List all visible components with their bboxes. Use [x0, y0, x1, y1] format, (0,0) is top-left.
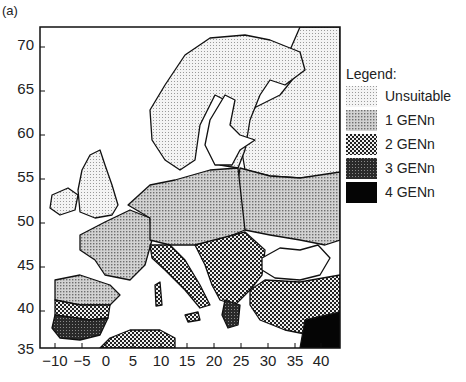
legend-swatch: [346, 110, 377, 131]
legend-swatch: [346, 134, 377, 155]
legend-swatch: [346, 158, 377, 179]
legend-label: Unsuitable: [385, 88, 451, 104]
region-greece: [222, 300, 240, 328]
legend-item-1-genn: 1 GENn: [346, 110, 466, 132]
legend-label: 3 GENn: [385, 160, 435, 176]
legend-swatch: [346, 182, 377, 203]
region-sardinia: [155, 282, 162, 306]
black-sea: [262, 245, 330, 280]
region-great-britain: [78, 150, 118, 218]
legend-item-4-genn: 4 GENn: [346, 182, 466, 204]
region-iberia-north: [55, 275, 120, 305]
legend-label: 2 GENn: [385, 136, 435, 152]
region-ireland: [50, 188, 78, 215]
region-iberia-south: [52, 315, 108, 340]
legend-item-unsuitable: Unsuitable: [346, 86, 466, 108]
legend-item-2-genn: 2 GENn: [346, 134, 466, 156]
region-north-africa: [100, 330, 175, 348]
region-south-russia: [235, 168, 340, 245]
legend-label: 4 GENn: [385, 184, 435, 200]
region-sicily: [185, 312, 200, 322]
legend-title: Legend:: [346, 66, 397, 82]
legend-item-3-genn: 3 GENn: [346, 158, 466, 180]
legend-label: 1 GENn: [385, 112, 435, 128]
region-france: [80, 210, 152, 280]
legend-swatch: [346, 86, 377, 107]
